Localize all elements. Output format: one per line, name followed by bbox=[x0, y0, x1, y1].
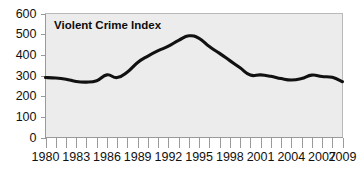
x-tick-label: 1983 bbox=[62, 150, 90, 164]
y-tick-label: 200 bbox=[16, 89, 37, 103]
x-axis-ticks bbox=[47, 138, 344, 148]
chart-canvas: 6005004003002001000 19801983198619891992… bbox=[0, 0, 364, 174]
chart-title: Violent Crime Index bbox=[54, 19, 162, 31]
x-tick-label: 1995 bbox=[185, 150, 213, 164]
plot-area-background bbox=[46, 14, 343, 138]
x-tick-label: 2004 bbox=[277, 150, 305, 164]
x-tick-label: 1986 bbox=[93, 150, 121, 164]
x-tick-label: 2001 bbox=[247, 150, 275, 164]
y-tick-label: 500 bbox=[16, 27, 37, 41]
y-tick-label: 100 bbox=[16, 110, 37, 124]
x-tick-label: 1992 bbox=[154, 150, 182, 164]
violent-crime-index-chart: 6005004003002001000 19801983198619891992… bbox=[0, 0, 364, 174]
x-tick-label: 2009 bbox=[329, 150, 357, 164]
y-axis-labels: 6005004003002001000 bbox=[16, 7, 37, 145]
x-tick-label: 1998 bbox=[216, 150, 244, 164]
y-tick-label: 300 bbox=[16, 69, 37, 83]
x-tick-label: 1989 bbox=[124, 150, 152, 164]
x-tick-label: 1980 bbox=[32, 150, 60, 164]
y-tick-label: 0 bbox=[30, 131, 37, 145]
x-axis-labels: 1980198319861989199219951998200120042007… bbox=[32, 150, 357, 164]
y-tick-label: 400 bbox=[16, 48, 37, 62]
y-tick-label: 600 bbox=[16, 7, 37, 21]
